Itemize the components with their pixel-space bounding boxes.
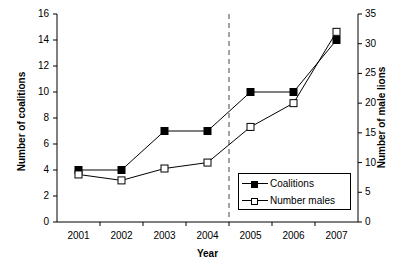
- data-point-number-males: [161, 165, 168, 172]
- data-series-layer: [75, 28, 340, 184]
- filled-square-marker-icon: [242, 178, 268, 190]
- data-point-number-males: [333, 28, 340, 35]
- legend-item-coalitions: Coalitions: [239, 175, 350, 192]
- line-chart: Number of coalitions Number of male lion…: [0, 0, 407, 269]
- data-point-number-males: [290, 100, 297, 107]
- legend-label-number-males: Number males: [268, 195, 335, 206]
- data-point-number-males: [204, 159, 211, 166]
- chart-legend: Coalitions Number males: [238, 173, 351, 210]
- open-square-marker-icon: [242, 195, 268, 207]
- data-point-number-males: [118, 177, 125, 184]
- data-point-coalitions: [204, 128, 211, 135]
- data-point-number-males: [247, 123, 254, 130]
- data-point-coalitions: [290, 89, 297, 96]
- data-point-coalitions: [247, 89, 254, 96]
- data-point-coalitions: [333, 37, 340, 44]
- data-point-coalitions: [161, 128, 168, 135]
- plot-area: [0, 0, 407, 269]
- legend-label-coalitions: Coalitions: [268, 178, 314, 189]
- data-point-coalitions: [118, 167, 125, 174]
- legend-item-number-males: Number males: [239, 192, 350, 209]
- data-point-number-males: [75, 171, 82, 178]
